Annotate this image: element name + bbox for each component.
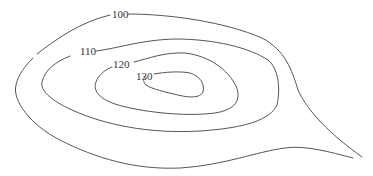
contour-label-120: 120 (113, 58, 130, 70)
contour-map: 100 110 120 130 (0, 0, 373, 176)
contour-line-130 (144, 72, 204, 97)
contour-label-110: 110 (80, 45, 97, 57)
contour-line-100-lower (15, 58, 353, 168)
contour-line-110 (42, 39, 279, 132)
contour-line-100 (37, 14, 362, 157)
contour-label-100: 100 (112, 8, 129, 20)
contour-diagram: 100 110 120 130 (0, 0, 373, 176)
contour-label-130: 130 (136, 70, 153, 82)
